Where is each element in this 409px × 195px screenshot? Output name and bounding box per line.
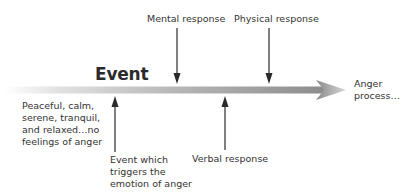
- physical-response-arrow-icon: [266, 28, 273, 84]
- end-state-label: Anger process…: [354, 78, 400, 102]
- mental-response-arrow-icon: [174, 28, 181, 84]
- timeline-bar: [4, 87, 326, 94]
- timeline-graphic: [0, 0, 409, 195]
- timeline-title: Event: [95, 64, 148, 84]
- start-state-label: Peaceful, calm, serene, tranquil, and re…: [22, 100, 102, 148]
- verbal-response-label: Verbal response: [192, 153, 268, 165]
- physical-response-label: Physical response: [234, 13, 319, 25]
- trigger-event-arrow-icon: [112, 96, 119, 152]
- mental-response-label: Mental response: [147, 13, 225, 25]
- verbal-response-arrow-icon: [222, 96, 229, 150]
- trigger-event-label: Event which triggers the emotion of ange…: [110, 154, 192, 190]
